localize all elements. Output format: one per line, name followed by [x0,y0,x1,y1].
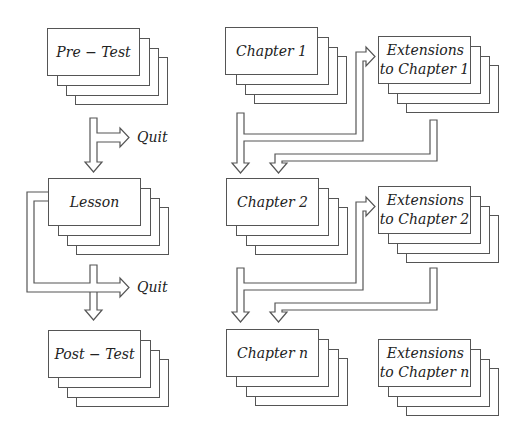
posttest-box[interactable]: Post − Test [48,330,141,378]
extensions2-box[interactable]: Extensions to Chapter 2 [378,186,471,234]
quit-label-2: Quit [137,279,168,295]
extensions1-label-line1: Extensions [379,41,470,60]
chapter1-box[interactable]: Chapter 1 [225,27,318,75]
chapter1-label: Chapter 1 [236,42,307,61]
chapter2-label: Chapter 2 [237,193,308,212]
posttest-label: Post − Test [54,345,134,364]
extensions2-label-line2: to Chapter 2 [380,210,470,229]
extensions-n-box[interactable]: Extensions to Chapter n [378,339,471,387]
chapter2-box[interactable]: Chapter 2 [226,178,319,226]
pretest-label: Pre − Test [56,43,130,62]
quit-label-1: Quit [137,129,168,145]
arrow-lesson-to-posttest [85,292,102,320]
arrow-extensions1-to-chapter2 [270,120,437,173]
arrow-extensions2-to-chapter-n [270,268,437,322]
pretest-box[interactable]: Pre − Test [47,28,140,76]
lesson-label: Lesson [70,193,119,212]
chapter-n-box[interactable]: Chapter n [226,329,319,377]
chapter-n-label: Chapter n [237,344,308,363]
extensions1-label-line2: to Chapter 1 [380,60,470,79]
extensions2-label-line1: Extensions [379,191,470,210]
arrow-pretest-to-lesson [85,118,129,172]
extensions1-box[interactable]: Extensions to Chapter 1 [378,36,471,84]
flow-diagram: Pre − Test Quit Lesson Quit Post − Test … [0,0,529,442]
extensions-n-label-line2: to Chapter n [380,363,470,382]
extensions-n-label-line1: Extensions [379,344,470,363]
lesson-box[interactable]: Lesson [48,178,141,226]
